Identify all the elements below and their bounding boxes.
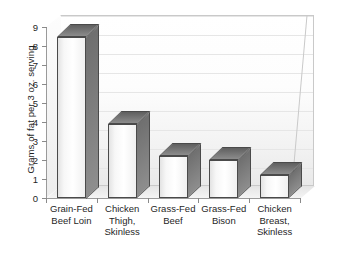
bar-front-face bbox=[260, 175, 289, 198]
y-axis-tick bbox=[42, 103, 47, 104]
bar-front-face bbox=[57, 37, 86, 199]
y-axis-tick-label: 4 bbox=[33, 117, 38, 128]
y-axis-tick-label: 7 bbox=[33, 60, 38, 71]
x-axis-category-label: ChickenBreast,Skinless bbox=[249, 203, 300, 238]
x-axis-category-line: Bison bbox=[198, 215, 249, 227]
y-axis-tick-label: 3 bbox=[33, 136, 38, 147]
bar bbox=[260, 175, 289, 198]
y-axis-tick bbox=[42, 141, 47, 142]
y-axis-tick bbox=[42, 122, 47, 123]
x-axis-category-line: Chicken bbox=[249, 203, 300, 215]
y-axis-tick bbox=[42, 179, 47, 180]
bar bbox=[108, 124, 137, 198]
x-axis-category-line: Beef bbox=[148, 215, 199, 227]
x-axis-category-line: Skinless bbox=[97, 226, 148, 238]
x-axis-labels: Grain-FedBeef LoinChickenThigh,SkinlessG… bbox=[46, 203, 300, 255]
y-axis-line bbox=[46, 27, 47, 199]
gridline bbox=[61, 16, 313, 17]
bar-side-face bbox=[137, 112, 150, 198]
x-axis-category-line: Beef Loin bbox=[46, 215, 97, 227]
x-axis-category-line: Grass-Fed bbox=[198, 203, 249, 215]
y-axis-tick-label: 1 bbox=[33, 174, 38, 185]
y-axis-tick-label: 0 bbox=[33, 193, 38, 204]
bar-front-face bbox=[108, 124, 137, 198]
bar bbox=[209, 160, 238, 198]
bar-front-face bbox=[159, 156, 188, 198]
y-axis-tick-label: 6 bbox=[33, 79, 38, 90]
y-axis-tick bbox=[42, 27, 47, 28]
y-axis-tick-label: 2 bbox=[33, 155, 38, 166]
bar-chart: Grams of fat per 3 oz. serving 012345678… bbox=[0, 0, 352, 258]
bar bbox=[159, 156, 188, 198]
bar-front-face bbox=[209, 160, 238, 198]
x-axis-category-line: Breast, bbox=[249, 215, 300, 227]
plot-area: 0123456789 bbox=[46, 27, 300, 198]
x-axis-category-label: Grass-FedBeef bbox=[148, 203, 199, 226]
y-axis-tick-label: 9 bbox=[33, 22, 38, 33]
y-axis-tick bbox=[42, 46, 47, 47]
y-axis-tick bbox=[42, 65, 47, 66]
x-axis-line bbox=[46, 198, 301, 199]
x-axis-tick bbox=[300, 198, 301, 203]
y-axis-tick bbox=[42, 160, 47, 161]
x-axis-category-label: Grass-FedBison bbox=[198, 203, 249, 226]
x-axis-category-line: Grain-Fed bbox=[46, 203, 97, 215]
x-axis-category-line: Grass-Fed bbox=[148, 203, 199, 215]
x-axis-category-line: Chicken bbox=[97, 203, 148, 215]
y-axis-tick-label: 5 bbox=[33, 98, 38, 109]
bar-side-face bbox=[86, 24, 99, 198]
x-axis-category-line: Thigh, bbox=[97, 215, 148, 227]
y-axis-tick-label: 8 bbox=[33, 41, 38, 52]
x-axis-category-label: Grain-FedBeef Loin bbox=[46, 203, 97, 226]
x-axis-category-line: Skinless bbox=[249, 226, 300, 238]
y-axis-tick bbox=[42, 84, 47, 85]
x-axis-category-label: ChickenThigh,Skinless bbox=[97, 203, 148, 238]
bar bbox=[57, 37, 86, 199]
